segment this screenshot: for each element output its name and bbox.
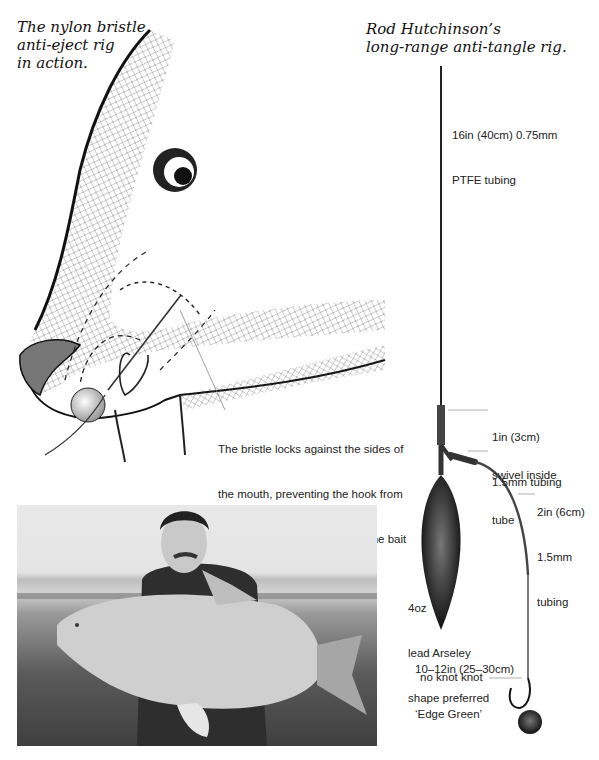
label-knot: no knot knot	[420, 670, 483, 685]
annotation-line: The bristle locks against the sides of	[218, 442, 406, 457]
label-line: 2in (6cm)	[537, 505, 585, 520]
label-tubing-2in: 2in (6cm) 1.5mm tubing	[537, 475, 585, 625]
fish-eye-icon	[153, 148, 197, 192]
label-line: tubing	[537, 595, 585, 610]
label-line: ‘Edge Green’	[415, 707, 514, 722]
fish-head-scales	[28, 30, 385, 395]
photo-content	[17, 505, 377, 746]
label-ptfe-tubing: 16in (40cm) 0.75mm PTFE tubing	[452, 98, 557, 203]
boilie-bait-rig	[518, 710, 542, 734]
label-line: PTFE tubing	[452, 173, 557, 188]
angler-carp-photo	[17, 505, 377, 746]
boilie-bait	[71, 388, 105, 422]
annotation-line: the mouth, preventing the hook from	[218, 487, 406, 502]
label-line: 16in (40cm) 0.75mm	[452, 128, 557, 143]
swivel	[450, 455, 475, 462]
tubing-1in	[437, 405, 445, 445]
label-line: 1.5mm	[537, 550, 585, 565]
label-line: 4oz	[408, 601, 489, 616]
